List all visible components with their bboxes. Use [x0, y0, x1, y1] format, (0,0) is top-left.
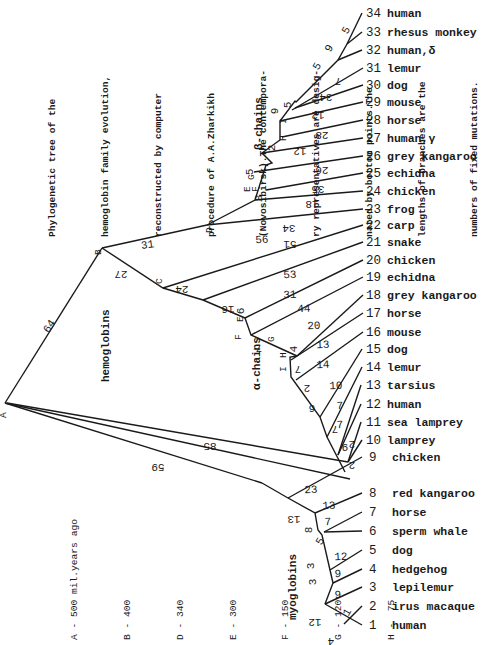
- branch-length-label: 20: [307, 320, 321, 333]
- leaf-name: echidna: [387, 167, 435, 180]
- node-F-beta: F: [250, 186, 261, 192]
- group-label-hemoglobins: hemoglobins: [100, 309, 112, 382]
- node-I-beta: I: [278, 118, 289, 124]
- leaf-number: 20: [366, 254, 381, 268]
- group-label-beta-chains: β-chains: [253, 97, 265, 150]
- phylogenetic-tree: 34human33rhesus monkey32human,δ31lemur30…: [0, 0, 487, 645]
- leaf-number: 10: [366, 434, 381, 448]
- leaf-name: carp: [387, 219, 415, 232]
- branch-length-label: 2: [304, 382, 311, 394]
- leaf-number: 31: [366, 62, 381, 76]
- branch-length-label: 12: [293, 145, 306, 157]
- leaf-number: 22: [366, 219, 381, 233]
- leaf-name: dog: [387, 79, 408, 92]
- branch-length-label: 8: [303, 527, 315, 534]
- branch-length-label: 5: [282, 102, 294, 109]
- node-C: C: [154, 278, 165, 284]
- branch-length-label: 2: [349, 438, 356, 450]
- leaf-number: 16: [366, 326, 381, 340]
- leaf-name: human: [387, 7, 422, 20]
- branch-B-D: [102, 225, 207, 248]
- branch-length-label: 3: [305, 563, 317, 570]
- branch-length-label: 31: [140, 238, 155, 252]
- branch-length-label: 23: [304, 484, 318, 497]
- branch-length-label: 5: [311, 61, 325, 73]
- leaf-name: grey kangaroo: [387, 289, 477, 302]
- branch-A-myoglobins: [5, 403, 262, 483]
- leaf-number: 3: [369, 581, 377, 595]
- branch-length-label: 7: [295, 363, 302, 375]
- branch-length-label: 3: [307, 579, 319, 586]
- leaf-number: 30: [366, 79, 381, 93]
- leaf-name: grey kangaroo: [387, 150, 477, 163]
- branch-length-label: 9: [334, 589, 341, 601]
- branch-length-label: 12: [308, 616, 321, 628]
- leaf-number: 12: [366, 398, 381, 412]
- branch-leaf-6: [324, 531, 362, 532]
- leaf-number: 18: [366, 289, 381, 303]
- branch-length-label: 13: [316, 339, 330, 352]
- leaf-name: lamprey: [387, 434, 435, 447]
- branch-length-label: 12: [334, 551, 348, 564]
- leaf-name: human,δ: [387, 44, 435, 57]
- leaf-name: horse: [387, 114, 422, 127]
- branch-length-label: 24: [175, 283, 189, 295]
- branch-length-label: 28: [315, 129, 328, 141]
- node-H-beta: H: [278, 135, 289, 141]
- group-label-myoglobins: myoglobins: [287, 554, 299, 620]
- leaf-number: 24: [366, 185, 381, 199]
- branch-length-label: 5: [314, 536, 328, 548]
- leaf-number: 13: [366, 379, 381, 393]
- branch-length-label: 7: [336, 400, 343, 412]
- node-D: D: [204, 227, 215, 233]
- node-A: A: [0, 412, 9, 418]
- branch-length-label: 51: [283, 238, 297, 250]
- branch-length-label: 18: [305, 198, 318, 210]
- branch-A-L: [7, 403, 348, 462]
- node-F-alpha: F: [233, 334, 244, 340]
- leaf-name: irus macaque: [392, 600, 475, 613]
- branch-length-label: 6: [309, 402, 316, 414]
- leaf-name: echidna: [387, 271, 435, 284]
- leaf-number: 29: [366, 96, 381, 110]
- node-G-alpha: G: [266, 336, 277, 342]
- leaf-number: 11: [366, 416, 381, 430]
- branch-length-label: 8: [253, 195, 265, 202]
- branch-length-label: 10: [329, 380, 343, 393]
- leaf-name: chicken: [392, 451, 440, 464]
- leaf-name: hedgehog: [392, 563, 447, 576]
- leaf-name: frog: [387, 203, 415, 216]
- leaf-name: mouse: [387, 326, 422, 339]
- branch-leaf-16: [296, 332, 363, 380]
- branch-length-label: 7: [335, 75, 342, 87]
- branch-lengths: 6485593127562453163164472013414710276779…: [41, 25, 355, 645]
- branch-length-label: 14: [316, 359, 330, 372]
- node-E-alpha: E: [235, 316, 246, 322]
- branch-length-label: 4: [327, 635, 334, 645]
- branch-length-label: 31: [283, 289, 297, 302]
- leaf-number: 33: [366, 26, 381, 40]
- leaf-name: dog: [387, 343, 408, 356]
- branch-length-label: 53: [283, 269, 297, 282]
- leaf-name: tarsius: [387, 379, 435, 392]
- leaf-name: rhesus monkey: [387, 26, 477, 39]
- leaf-name: human,γ: [387, 132, 435, 145]
- branch-length-label: 13: [322, 500, 336, 513]
- leaf-name: lepilemur: [392, 581, 454, 594]
- leaf-number: 1: [369, 619, 377, 633]
- leaf-labels: 34human33rhesus monkey32human,δ31lemur30…: [366, 7, 477, 633]
- branch-length-label: 6: [235, 308, 247, 315]
- branch-length-label: 44: [297, 303, 311, 316]
- leaf-name: chicken: [387, 185, 435, 198]
- leaf-number: 34: [366, 7, 381, 21]
- leaf-name: dog: [392, 544, 413, 557]
- leaf-number: 8: [369, 487, 377, 501]
- branch-length-label: 9: [269, 108, 281, 115]
- leaf-number: 7: [369, 506, 377, 520]
- branch-length-label: 7: [324, 516, 331, 528]
- branch-length-label: 7: [256, 342, 263, 354]
- branch-length-label: 34: [319, 91, 333, 103]
- leaf-number: 27: [366, 132, 381, 146]
- leaf-name: human: [392, 619, 427, 632]
- leaf-number: 15: [366, 343, 381, 357]
